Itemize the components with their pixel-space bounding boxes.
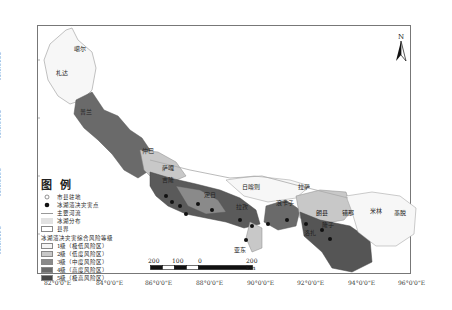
north-arrow-icon xyxy=(395,41,407,61)
legend-risk-1: 1级（极低风险区） xyxy=(41,242,151,250)
lat-label-32: 32°0'0"N xyxy=(0,52,2,80)
place-label: 拉萨 xyxy=(298,182,310,191)
legend-label: 3级（中度风险区） xyxy=(57,258,109,266)
scale-label-0: 0 xyxy=(198,257,202,264)
risk-2-swatch xyxy=(41,251,53,257)
place-label: 亚东 xyxy=(234,245,246,254)
north-label: N xyxy=(395,33,407,41)
legend-label: 主要河流 xyxy=(57,209,81,217)
lon-label-94: 94°0'0"E xyxy=(348,279,375,286)
open-circle-icon xyxy=(41,194,53,200)
place-label: 浪卡子 xyxy=(276,198,294,207)
place-label: 米林 xyxy=(370,206,382,215)
place-label: 隆子 xyxy=(322,220,334,229)
north-arrow: N xyxy=(395,33,407,63)
legend-item-county-boundary: 县界 xyxy=(41,225,151,233)
legend-item-glacial-lake: 冰湖分布 xyxy=(41,217,151,225)
scale-label-100: 100 xyxy=(172,257,183,264)
place-label: 错那 xyxy=(342,208,354,217)
axis-ticks xyxy=(37,60,40,234)
legend-label: 冰湖分布 xyxy=(57,217,81,225)
lat-label-28: 28°0'0"N xyxy=(0,168,2,196)
legend-label: 4级（高度风险区） xyxy=(57,266,109,274)
legend-label: 冰湖溃决灾害点 xyxy=(57,201,99,209)
place-label: 噶尔 xyxy=(74,44,86,53)
legend-label: 2级（低度风险区） xyxy=(57,250,109,258)
legend-label: 县界 xyxy=(57,225,69,233)
lat-label-26: 26°0'0"N xyxy=(0,226,2,254)
legend-label: 5级（极高风险区） xyxy=(57,274,109,282)
place-label: 札达 xyxy=(56,68,68,77)
legend-risk-4: 4级（高度风险区） xyxy=(41,266,151,274)
risk-legend-title: 冰湖溃决灾害综合风险等级 xyxy=(41,234,151,242)
place-label: 墨脱 xyxy=(394,208,406,217)
legend-risk-2: 2级（低度风险区） xyxy=(41,250,151,258)
filled-dot-icon xyxy=(41,202,53,208)
place-label: 朗县 xyxy=(316,208,328,217)
risk-3-swatch xyxy=(41,259,53,265)
lon-label-90: 90°0'0"E xyxy=(247,279,274,286)
legend-title: 图 例 xyxy=(41,176,151,192)
place-label: 吉隆 xyxy=(162,175,174,184)
river-line-icon xyxy=(41,213,53,214)
scale-bar-graphic xyxy=(150,265,260,271)
legend-label: 市县驻地 xyxy=(57,193,81,201)
legend-risk-5: 5级（极高风险区） xyxy=(41,274,151,282)
lat-label-30: 30°0'0"N xyxy=(0,110,2,138)
legend-item-disaster-point: 冰湖溃决灾害点 xyxy=(41,201,151,209)
place-label: 洛扎 xyxy=(304,228,316,237)
legend: 图 例 市县驻地 冰湖溃决灾害点 主要河流 冰湖分布 县界 冰湖溃决灾害综合风险… xyxy=(41,176,151,282)
risk-1-swatch xyxy=(41,243,53,249)
place-label: 日喀则 xyxy=(242,182,260,191)
place-label: 定日 xyxy=(204,190,216,199)
legend-item-county-seat: 市县驻地 xyxy=(41,193,151,201)
legend-label: 1级（极低风险区） xyxy=(57,242,109,250)
region-very-low-west xyxy=(44,28,96,104)
place-label: 萨嘎 xyxy=(162,163,174,172)
risk-5-swatch xyxy=(41,275,53,281)
place-label: 拉孜 xyxy=(236,202,248,211)
lon-label-96: 96°0'0"E xyxy=(398,279,425,286)
risk-4-swatch xyxy=(41,267,53,273)
scale-bar: 200 100 0 200 km xyxy=(150,257,260,272)
place-label: 仲巴 xyxy=(142,146,154,155)
legend-item-river: 主要河流 xyxy=(41,209,151,217)
legend-risk-3: 3级（中度风险区） xyxy=(41,258,151,266)
lon-label-92: 92°0'0"E xyxy=(297,279,324,286)
lake-fill-swatch xyxy=(41,218,53,224)
lon-label-88: 88°0'0"E xyxy=(196,279,223,286)
place-label: 普兰 xyxy=(80,107,92,116)
boundary-swatch xyxy=(41,226,53,232)
region-high-west xyxy=(74,92,150,178)
scale-label-200km: 200 km xyxy=(246,257,260,271)
